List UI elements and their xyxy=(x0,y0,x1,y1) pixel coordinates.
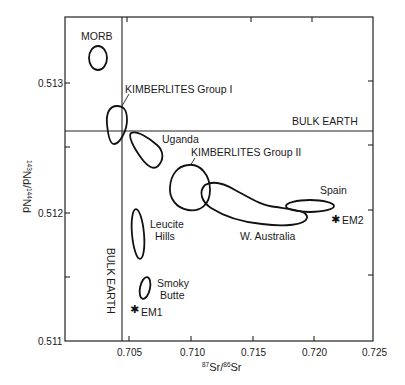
y-axis-label: 143Nd/144Nd xyxy=(21,160,33,213)
spain-label: Spain xyxy=(320,184,347,196)
morb-label: MORB xyxy=(81,30,113,42)
x-tick-0715: 0.715 xyxy=(241,347,266,358)
x-tick-0710: 0.710 xyxy=(180,347,205,358)
em2-marker-icon: ✱ xyxy=(331,213,340,226)
morb-field xyxy=(89,46,107,70)
x-axis-ticks xyxy=(127,17,314,341)
leucite-hills-label-2: Hills xyxy=(155,230,175,242)
spain-field xyxy=(286,200,334,212)
smoky-butte-label-1: Smoky xyxy=(157,277,190,289)
uganda-field xyxy=(130,132,162,167)
y-tick-0511: 0.511 xyxy=(38,336,63,347)
kimberlites-group-1-field xyxy=(107,106,127,144)
x-tick-0725: 0.725 xyxy=(362,347,387,358)
bulk-earth-vertical-label: BULK EARTH xyxy=(105,248,117,314)
em2-label: EM2 xyxy=(342,214,364,226)
kimberlites-group-1-leader xyxy=(122,94,129,106)
w-australia-label: W. Australia xyxy=(240,230,296,242)
x-tick-0720: 0.720 xyxy=(302,347,327,358)
kimberlites-group-1-label: KIMBERLITES Group I xyxy=(125,83,232,95)
smoky-butte-field xyxy=(138,276,152,300)
smoky-butte-label-2: Butte xyxy=(160,289,185,301)
em1-label: EM1 xyxy=(141,306,163,318)
w-australia-field xyxy=(201,183,307,226)
uganda-label: Uganda xyxy=(162,133,199,145)
leucite-hills-field xyxy=(130,209,146,260)
sr-nd-isotope-diagram: 0.513 0.512 0.511 0.705 0.710 0.715 0.72… xyxy=(0,0,405,385)
y-tick-0512: 0.512 xyxy=(38,208,63,219)
kimberlites-group-2-label: KIMBERLITES Group II xyxy=(191,146,301,158)
leucite-hills-label-1: Leucite xyxy=(150,218,184,230)
bulk-earth-horizontal-label: BULK EARTH xyxy=(292,115,358,127)
y-tick-0513: 0.513 xyxy=(38,78,63,89)
x-axis-label: 87Sr/86Sr xyxy=(202,361,242,373)
x-tick-0705: 0.705 xyxy=(117,347,142,358)
em1-marker-icon: ✱ xyxy=(130,303,139,316)
